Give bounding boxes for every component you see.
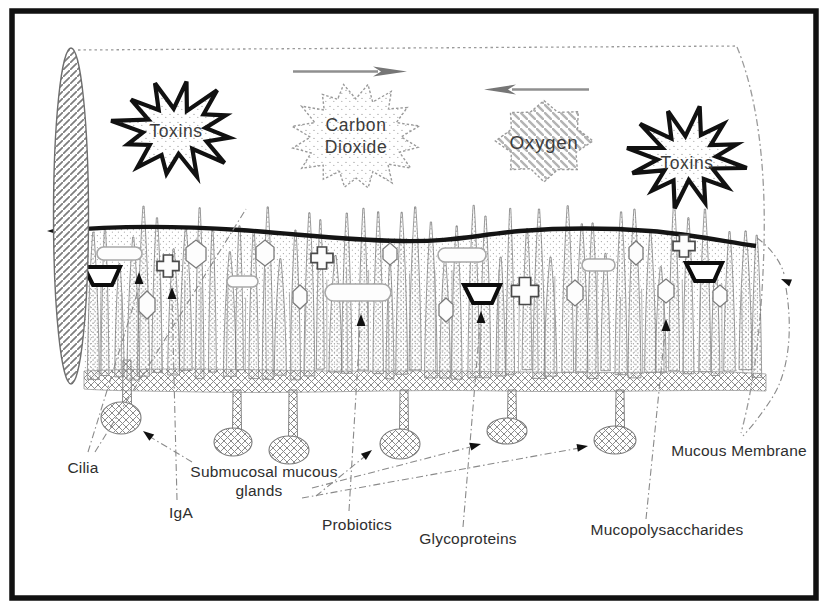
oxygen-label: Oxygen <box>509 132 578 153</box>
gas-bursts <box>111 82 747 209</box>
gland-body <box>594 426 636 454</box>
carbon-dioxide-label-line2: Dioxide <box>325 137 388 157</box>
membrane-arrowhead <box>781 279 792 286</box>
left-arrowhead-icon <box>484 85 516 95</box>
gland-body <box>487 418 527 444</box>
tube-cut-end <box>54 48 89 384</box>
submucosal-gland <box>487 390 527 444</box>
gland-duct <box>400 390 409 430</box>
toxins-left-label: Toxins <box>149 121 202 141</box>
probiotic-pill <box>97 247 142 260</box>
mucopolysaccharides-label: Mucopolysaccharides <box>591 521 744 538</box>
submucosal-gland <box>380 390 420 459</box>
gland-duct <box>289 390 298 438</box>
part-labels: Cilia IgA Submucosal mucous glands Probi… <box>67 442 806 547</box>
gland-body <box>269 436 309 464</box>
gland-duct <box>508 390 517 420</box>
probiotic-pill <box>325 284 391 301</box>
gland-duct <box>233 390 242 430</box>
probiotics-label: Probiotics <box>322 516 392 533</box>
submucosal-gland <box>269 390 309 464</box>
gland-body <box>101 402 141 434</box>
probiotic-pill <box>582 259 615 271</box>
probiotic-pill <box>227 276 258 287</box>
probiotic-pill <box>438 248 486 262</box>
right-arrowhead-icon <box>373 67 407 77</box>
mucous-membrane-diagram: Toxins Carbon Dioxide Oxygen Toxins <box>0 0 825 605</box>
submucosa-band <box>84 369 766 392</box>
tube-top-edge <box>78 46 737 50</box>
submucosal-glands-label-line1: Submucosal mucous <box>190 463 337 480</box>
glycoproteins-label: Glycoproteins <box>419 530 516 547</box>
gland1-arrowhead <box>143 431 154 441</box>
carbon-dioxide-flow-arrow <box>293 67 407 77</box>
iga-label: IgA <box>169 504 193 521</box>
diagram-canvas: Toxins Carbon Dioxide Oxygen Toxins <box>0 0 825 605</box>
toxins-right-label: Toxins <box>660 153 713 173</box>
submucosal-gland <box>594 390 636 454</box>
cilia-label: Cilia <box>67 459 98 476</box>
carbon-dioxide-label-line1: Carbon <box>326 115 387 135</box>
submucosal-glands-label-line2: glands <box>236 482 283 499</box>
mucous-membrane-label: Mucous Membrane <box>671 442 807 459</box>
cilium <box>699 209 711 372</box>
oxygen-flow-arrow <box>484 85 589 95</box>
gland-body <box>214 428 252 456</box>
cilium <box>396 212 408 374</box>
gland-duct <box>616 390 625 428</box>
glands-leader-4 <box>302 447 585 498</box>
submucosal-gland <box>214 390 252 456</box>
gland6-arrowhead <box>577 444 589 452</box>
gland-duct <box>123 360 132 406</box>
membrane-brace-upper <box>757 238 784 274</box>
gland-body <box>380 429 420 459</box>
glands-leader-1 <box>147 435 192 462</box>
gland5-arrowhead <box>469 443 481 451</box>
